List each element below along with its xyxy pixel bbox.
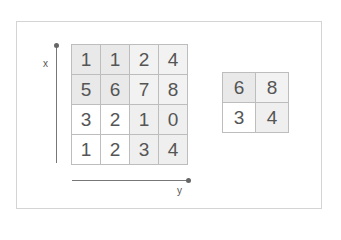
matrix-cell: 1 <box>130 105 159 135</box>
pooled-matrix: 6 8 3 4 <box>222 72 289 133</box>
matrix-cell: 2 <box>101 135 130 165</box>
matrix-cell: 1 <box>101 45 130 75</box>
matrix-cell: 5 <box>72 75 101 105</box>
matrix-cell: 4 <box>159 45 188 75</box>
pooled-cell: 8 <box>256 73 289 103</box>
matrix-cell: 2 <box>101 105 130 135</box>
horizontal-axis-line <box>72 180 188 181</box>
matrix-cell: 6 <box>101 75 130 105</box>
matrix-cell: 4 <box>159 135 188 165</box>
input-matrix: 1 1 2 4 5 6 7 8 3 2 1 0 1 2 3 4 <box>71 44 188 165</box>
matrix-cell: 1 <box>72 135 101 165</box>
pooled-cell: 3 <box>223 103 256 133</box>
matrix-cell: 3 <box>72 105 101 135</box>
matrix-cell: 3 <box>130 135 159 165</box>
horizontal-axis-arrow-icon <box>186 178 191 183</box>
matrix-cell: 2 <box>130 45 159 75</box>
horizontal-axis-label: y <box>177 185 182 196</box>
pooled-cell: 6 <box>223 73 256 103</box>
vertical-axis-line <box>56 45 57 163</box>
vertical-axis-arrow-icon <box>54 43 59 48</box>
matrix-cell: 1 <box>72 45 101 75</box>
pooled-cell: 4 <box>256 103 289 133</box>
matrix-cell: 8 <box>159 75 188 105</box>
matrix-cell: 0 <box>159 105 188 135</box>
matrix-cell: 7 <box>130 75 159 105</box>
vertical-axis-label: x <box>43 58 48 69</box>
